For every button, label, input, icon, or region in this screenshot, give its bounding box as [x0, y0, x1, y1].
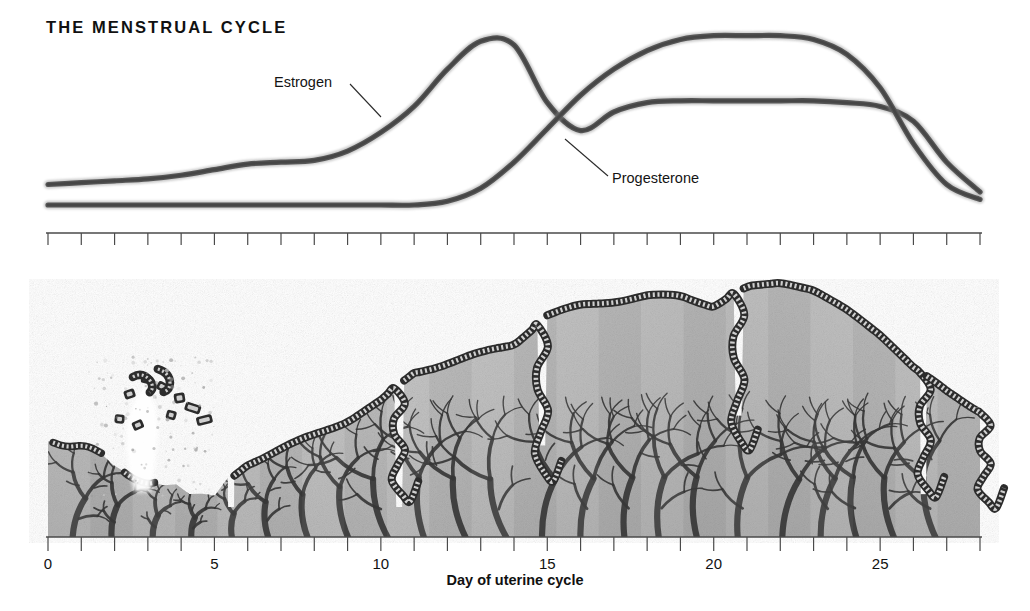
- tissue-shade-band: [429, 278, 471, 539]
- debris-speckle: [124, 416, 127, 419]
- debris-speckle: [96, 362, 98, 364]
- debris-speckle: [145, 463, 147, 465]
- debris-speckle: [192, 432, 195, 435]
- debris-speckle: [113, 448, 114, 449]
- debris-speckle: [131, 361, 135, 365]
- debris-speckle: [211, 434, 213, 436]
- debris-speckle: [172, 400, 176, 404]
- tissue-shade-band: [302, 278, 344, 539]
- debris-speckle: [213, 426, 214, 427]
- debris-speckle: [181, 376, 185, 380]
- hormone-axis: [46, 233, 982, 245]
- debris-speckle: [103, 359, 107, 363]
- debris-speckle: [137, 482, 139, 484]
- debris-speckle: [162, 494, 164, 496]
- debris-speckle: [121, 442, 125, 446]
- debris-speckle: [177, 478, 181, 482]
- debris-speckle: [104, 424, 108, 428]
- debris-speckle: [139, 409, 141, 411]
- debris-speckle: [115, 474, 117, 476]
- debris-speckle: [158, 405, 162, 409]
- debris-speckle: [208, 449, 210, 451]
- debris-speckle: [147, 407, 148, 408]
- x-axis-tick-label: 20: [705, 555, 722, 572]
- debris-speckle: [184, 448, 186, 450]
- debris-speckle: [204, 450, 207, 453]
- tissue-shade-band: [641, 278, 683, 539]
- debris-speckle: [107, 372, 108, 373]
- debris-speckle: [150, 362, 152, 364]
- tissue-fragment: [196, 414, 214, 427]
- tissue-shade-band: [556, 278, 598, 539]
- debris-speckle: [170, 433, 171, 434]
- debris-speckle: [166, 418, 170, 422]
- debris-speckle: [206, 359, 209, 362]
- debris-speckle: [175, 379, 176, 380]
- debris-speckle: [187, 464, 190, 467]
- artery-branch: [211, 485, 215, 492]
- x-axis-tick-label: 5: [210, 555, 218, 572]
- debris-speckle: [109, 361, 110, 362]
- debris-speckle: [156, 359, 159, 362]
- debris-speckle: [111, 374, 114, 377]
- debris-speckle: [120, 435, 123, 438]
- debris-speckle: [180, 365, 181, 366]
- debris-speckle: [101, 448, 102, 449]
- debris-speckle: [195, 488, 196, 489]
- artery-branch: [207, 492, 215, 493]
- debris-speckle: [135, 408, 137, 410]
- menstrual-cycle-figure: THE MENSTRUAL CYCLE Estrogen Progesteron…: [0, 0, 1030, 611]
- debris-speckle: [125, 402, 128, 405]
- debris-speckle: [182, 465, 184, 467]
- progesterone-leader-line: [565, 139, 608, 176]
- debris-speckle: [184, 419, 188, 423]
- debris-speckle: [141, 464, 143, 466]
- artery-branch: [229, 499, 232, 506]
- debris-speckle: [153, 395, 157, 399]
- debris-speckle: [194, 382, 196, 384]
- debris-speckle: [147, 364, 148, 365]
- debris-speckle: [177, 387, 181, 391]
- debris-speckle: [106, 406, 107, 407]
- debris-speckle: [108, 403, 110, 405]
- x-axis-tick-label: 15: [539, 555, 556, 572]
- debris-speckle: [113, 433, 116, 436]
- debris-speckle: [169, 358, 173, 362]
- debris-speckle: [172, 448, 175, 451]
- artery-branch: [190, 489, 194, 494]
- x-axis-tick-label: 25: [872, 555, 889, 572]
- debris-speckle: [147, 358, 149, 360]
- debris-speckle: [116, 416, 119, 419]
- tissue-shade-band: [811, 278, 853, 539]
- debris-speckle: [94, 402, 98, 406]
- debris-speckle: [122, 428, 124, 430]
- debris-speckle: [152, 495, 154, 497]
- debris-speckle: [135, 480, 137, 482]
- debris-speckle: [208, 488, 210, 490]
- tissue-fragment: [114, 414, 125, 424]
- page-title: THE MENSTRUAL CYCLE: [46, 18, 287, 37]
- debris-speckle: [189, 408, 191, 410]
- debris-speckle: [201, 408, 202, 409]
- debris-speckle: [124, 387, 127, 390]
- debris-speckle: [167, 459, 170, 462]
- debris-speckle: [198, 404, 201, 407]
- endometrium-illustration: [43, 278, 1004, 551]
- debris-speckle: [102, 378, 105, 381]
- debris-speckle: [197, 360, 201, 364]
- hormone-plot: [46, 35, 982, 245]
- debris-speckle: [126, 412, 130, 416]
- debris-speckle: [169, 435, 172, 438]
- debris-speckle: [208, 411, 212, 415]
- debris-speckle: [165, 369, 169, 373]
- estrogen-curve-label: Estrogen: [274, 74, 332, 90]
- debris-speckle: [103, 494, 105, 496]
- debris-speckle: [91, 495, 94, 498]
- debris-speckle: [143, 467, 146, 470]
- x-axis-tick-label: 0: [44, 555, 52, 572]
- debris-speckle: [169, 377, 173, 381]
- debris-speckle: [96, 443, 99, 446]
- debris-speckle: [101, 481, 102, 482]
- debris-speckle: [115, 493, 117, 495]
- debris-speckle: [187, 402, 188, 403]
